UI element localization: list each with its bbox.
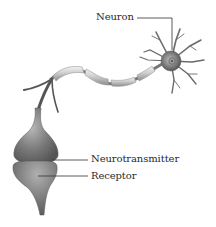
presynaptic-terminal bbox=[14, 108, 58, 164]
neuron-label: Neuron bbox=[96, 11, 134, 23]
axon-terminals bbox=[24, 79, 58, 112]
neuron-diagram: Neuron Neurotransmitter Receptor bbox=[0, 0, 216, 227]
diagram-illustration bbox=[0, 0, 216, 227]
neuron-leader-line bbox=[137, 18, 172, 50]
receptor-label: Receptor bbox=[91, 170, 136, 182]
myelin-sheath bbox=[53, 66, 155, 86]
postsynaptic-receptor bbox=[13, 161, 57, 215]
neurotransmitter-label: Neurotransmitter bbox=[91, 153, 179, 165]
